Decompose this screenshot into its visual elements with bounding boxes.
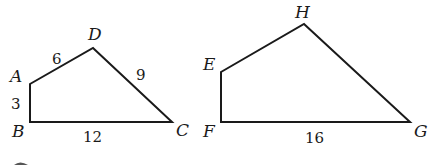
vertex-label-e: E: [202, 54, 216, 74]
vertex-label-f: F: [202, 121, 216, 141]
vertex-label-a: A: [8, 66, 22, 86]
vertex-label-b: B: [11, 121, 25, 141]
vertex-label-d: D: [87, 24, 102, 44]
vertex-label-h: H: [294, 2, 311, 22]
figure-efgh: E H G F 16: [202, 2, 428, 147]
vertex-label-g: G: [414, 121, 428, 141]
similar-quadrilaterals-diagram: A D C B 6 9 3 12 E H G F 16: [0, 0, 430, 165]
quadrilateral-efgh: [221, 24, 410, 122]
side-label-bc: 12: [83, 128, 102, 146]
vertex-label-c: C: [176, 120, 189, 140]
side-label-fg: 16: [305, 129, 324, 147]
side-label-ad: 6: [52, 50, 62, 68]
side-label-dc: 9: [136, 66, 146, 84]
side-label-ab: 3: [11, 95, 21, 113]
figure-abcd: A D C B 6 9 3 12: [8, 24, 189, 146]
clipped-glyph-artifact: [14, 163, 28, 166]
